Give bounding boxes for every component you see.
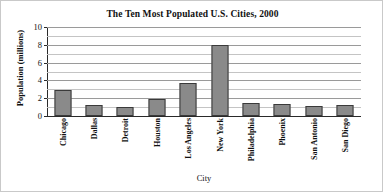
x-tick-label: San Diego	[341, 118, 350, 152]
x-tick-label: Detroit	[121, 118, 130, 142]
bar	[117, 107, 134, 116]
bar	[148, 99, 165, 116]
x-tick-label: Philadelphia	[247, 118, 256, 161]
bar	[211, 45, 228, 116]
bar-slot	[173, 27, 204, 116]
y-tick-label: 0	[38, 111, 42, 121]
x-tick: Los Angeles	[173, 118, 204, 173]
x-tick-label: Phoenix	[278, 118, 287, 146]
y-tick-mark	[44, 116, 47, 117]
chart-title: The Ten Most Populated U.S. Cities, 2000	[1, 9, 383, 19]
y-axis-title: Population (millions)	[15, 18, 25, 118]
bar-slot	[235, 27, 266, 116]
x-tick: San Diego	[330, 118, 361, 173]
x-axis-tick-labels: ChicagoDallasDetroitHoustonLos AngelesNe…	[47, 118, 361, 173]
x-tick: Houston	[141, 118, 172, 173]
plot-area: 0246810	[47, 27, 361, 116]
bar-slot	[110, 27, 141, 116]
bar-slot	[141, 27, 172, 116]
y-tick-label: 4	[38, 75, 42, 85]
x-tick: Phoenix	[267, 118, 298, 173]
x-tick-label: New York	[215, 118, 224, 152]
x-tick: New York	[204, 118, 235, 173]
bar-slot	[298, 27, 329, 116]
bar-series	[47, 27, 361, 116]
x-axis-title: City	[47, 173, 361, 183]
bar	[274, 104, 291, 116]
chart-figure: The Ten Most Populated U.S. Cities, 2000…	[0, 0, 383, 192]
bar-slot	[267, 27, 298, 116]
bar-slot	[330, 27, 361, 116]
x-tick-label: Chicago	[58, 118, 67, 146]
x-tick: Detroit	[110, 118, 141, 173]
bar-slot	[78, 27, 109, 116]
bar	[54, 90, 71, 116]
y-tick-label: 8	[38, 40, 42, 50]
x-tick: Dallas	[78, 118, 109, 173]
x-tick-label: San Antonio	[309, 118, 318, 160]
bar	[337, 105, 354, 116]
y-tick-label: 2	[38, 93, 42, 103]
bar	[305, 106, 322, 116]
bar	[243, 103, 260, 116]
x-tick-label: Los Angeles	[184, 118, 193, 159]
bar	[180, 83, 197, 116]
axis-baseline	[47, 116, 361, 117]
bar-slot	[47, 27, 78, 116]
bar-slot	[204, 27, 235, 116]
y-tick-label: 6	[38, 58, 42, 68]
y-tick-label: 10	[34, 22, 43, 32]
x-tick: San Antonio	[298, 118, 329, 173]
x-tick: Philadelphia	[235, 118, 266, 173]
x-tick: Chicago	[47, 118, 78, 173]
x-tick-label: Dallas	[90, 118, 99, 139]
bar	[86, 105, 103, 116]
x-tick-label: Houston	[152, 118, 161, 147]
